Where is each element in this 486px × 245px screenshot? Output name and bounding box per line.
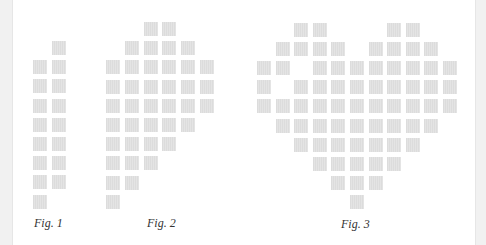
grid-tile	[162, 41, 176, 55]
grid-tile	[125, 118, 139, 132]
grid-tile	[443, 99, 457, 113]
figure-3-caption: Fig. 3	[341, 217, 370, 232]
grid-tile	[276, 61, 290, 75]
grid-tile	[331, 138, 345, 152]
grid-tile	[144, 118, 158, 132]
grid-tile	[406, 119, 420, 133]
grid-tile	[313, 99, 327, 113]
grid-tile	[52, 41, 66, 55]
grid-tile	[350, 99, 364, 113]
grid-tile	[33, 79, 47, 93]
grid-tile	[257, 99, 271, 113]
grid-tile	[106, 176, 120, 190]
grid-tile	[387, 61, 401, 75]
grid-tile	[294, 23, 308, 37]
grid-tile	[106, 99, 120, 113]
grid-tile	[125, 80, 139, 94]
grid-tile	[406, 80, 420, 94]
grid-tile	[33, 137, 47, 151]
grid-tile	[162, 60, 176, 74]
grid-tile	[443, 80, 457, 94]
grid-tile	[125, 99, 139, 113]
grid-tile	[331, 80, 345, 94]
grid-tile	[387, 42, 401, 56]
grid-tile	[200, 99, 214, 113]
grid-tile	[276, 42, 290, 56]
grid-tile	[294, 99, 308, 113]
grid-tile	[350, 157, 364, 171]
grid-tile	[52, 60, 66, 74]
grid-tile	[52, 118, 66, 132]
grid-tile	[33, 60, 47, 74]
grid-tile	[369, 176, 383, 190]
grid-tile	[106, 118, 120, 132]
grid-tile	[387, 157, 401, 171]
grid-tile	[181, 60, 195, 74]
grid-tile	[369, 42, 383, 56]
grid-tile	[313, 119, 327, 133]
grid-tile	[369, 119, 383, 133]
grid-tile	[125, 176, 139, 190]
grid-tile	[52, 79, 66, 93]
grid-tile	[106, 60, 120, 74]
grid-tile	[387, 23, 401, 37]
grid-tile	[144, 156, 158, 170]
grid-tile	[369, 80, 383, 94]
grid-tile	[406, 42, 420, 56]
grid-tile	[313, 61, 327, 75]
grid-tile	[181, 99, 195, 113]
grid-tile	[387, 138, 401, 152]
grid-tile	[350, 195, 364, 209]
grid-tile	[350, 61, 364, 75]
left-margin-strip	[0, 0, 13, 245]
grid-tile	[125, 41, 139, 55]
grid-tile	[424, 99, 438, 113]
grid-tile	[144, 22, 158, 36]
grid-tile	[33, 99, 47, 113]
grid-tile	[106, 195, 120, 209]
grid-tile	[106, 137, 120, 151]
figure-1-caption: Fig. 1	[34, 216, 63, 231]
grid-tile	[200, 80, 214, 94]
grid-tile	[162, 80, 176, 94]
grid-tile	[387, 99, 401, 113]
grid-tile	[52, 137, 66, 151]
grid-tile	[125, 156, 139, 170]
grid-tile	[424, 61, 438, 75]
grid-tile	[331, 99, 345, 113]
grid-tile	[313, 42, 327, 56]
grid-tile	[33, 175, 47, 189]
grid-tile	[181, 41, 195, 55]
grid-tile	[313, 138, 327, 152]
grid-tile	[144, 99, 158, 113]
grid-tile	[125, 137, 139, 151]
grid-tile	[294, 119, 308, 133]
grid-tile	[106, 80, 120, 94]
grid-tile	[350, 138, 364, 152]
grid-tile	[33, 118, 47, 132]
grid-tile	[369, 99, 383, 113]
grid-tile	[33, 156, 47, 170]
grid-tile	[350, 80, 364, 94]
grid-tile	[294, 138, 308, 152]
grid-tile	[369, 138, 383, 152]
grid-tile	[125, 60, 139, 74]
grid-tile	[387, 80, 401, 94]
grid-tile	[52, 156, 66, 170]
grid-tile	[313, 23, 327, 37]
grid-tile	[331, 119, 345, 133]
grid-tile	[106, 156, 120, 170]
grid-tile	[424, 119, 438, 133]
grid-tile	[331, 157, 345, 171]
grid-tile	[162, 22, 176, 36]
grid-tile	[331, 61, 345, 75]
grid-tile	[424, 42, 438, 56]
grid-tile	[313, 157, 327, 171]
grid-tile	[33, 195, 47, 209]
grid-tile	[331, 42, 345, 56]
grid-tile	[406, 99, 420, 113]
grid-tile	[387, 119, 401, 133]
grid-tile	[350, 176, 364, 190]
grid-tile	[406, 61, 420, 75]
grid-tile	[144, 137, 158, 151]
